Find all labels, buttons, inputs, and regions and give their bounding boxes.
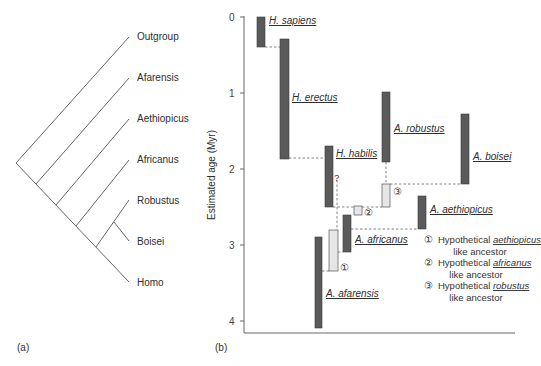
- legend-item-1: ① Hypothetical aethiopicus like ancestor: [424, 234, 541, 257]
- legend-prefix: Hypothetical: [438, 234, 493, 245]
- legend-prefix: Hypothetical: [438, 280, 493, 291]
- bar-a-afarensis: [315, 237, 322, 328]
- hypothetical-bars: [329, 184, 390, 271]
- marker-1: ①: [340, 262, 349, 273]
- boisei-branch: [114, 222, 129, 241]
- legend-suffix: like ancestor: [453, 246, 506, 257]
- y-tick-label: 0: [229, 12, 235, 23]
- bar-a-robustus: [382, 92, 390, 162]
- bar-hypothetical-1: [329, 230, 338, 271]
- taxon-label: Boisei: [137, 236, 164, 247]
- panel-b-label: (b): [215, 342, 227, 353]
- legend-text: Hypothetical africanus: [438, 257, 532, 268]
- figure-canvas: Outgroup Afarensis Aethiopicus Africanus…: [0, 0, 541, 366]
- taxon-label: Africanus: [137, 154, 179, 165]
- outgroup-branch: [16, 37, 129, 163]
- y-tick-label: 1: [229, 88, 235, 99]
- y-axis-label: Estimated age (Myr): [206, 130, 217, 220]
- taxon-label: Robustus: [137, 195, 179, 206]
- legend-suffix: like ancestor: [449, 292, 502, 303]
- species-label-a-robustus: A. robustus: [393, 123, 445, 134]
- species-label-a-boisei: A. boisei: [472, 151, 512, 162]
- y-tick-labels: 0 1 2 3 4: [229, 12, 235, 327]
- legend-taxon: robustus: [493, 280, 530, 291]
- bar-hypothetical-3: [382, 184, 390, 207]
- legend: ① Hypothetical aethiopicus like ancestor…: [424, 234, 541, 303]
- aethiopicus-branch: [56, 119, 129, 205]
- legend-taxon: aethiopicus: [493, 234, 541, 245]
- marker-2: ②: [364, 207, 373, 218]
- y-tick-label: 2: [229, 164, 235, 175]
- legend-number: ③: [424, 280, 433, 291]
- legend-number: ②: [424, 257, 433, 268]
- legend-text: Hypothetical robustus: [438, 280, 530, 291]
- cladogram: [16, 37, 129, 282]
- y-tick-label: 3: [229, 240, 235, 251]
- species-label-a-afarensis: A. afarensis: [325, 288, 379, 299]
- legend-item-3: ③ Hypothetical robustus like ancestor: [424, 280, 530, 303]
- afarensis-branch: [36, 78, 129, 184]
- taxon-label: Afarensis: [137, 72, 179, 83]
- taxon-label: Outgroup: [137, 31, 179, 42]
- africanus-branch: [76, 160, 129, 226]
- marker-3: ③: [393, 186, 402, 197]
- species-label-h-sapiens: H. sapiens: [269, 15, 316, 26]
- legend-prefix: Hypothetical: [438, 257, 493, 268]
- panel-a-label: (a): [17, 342, 29, 353]
- legend-number: ①: [424, 234, 433, 245]
- species-label-a-aethiopicus: A. aethiopicus: [429, 204, 493, 215]
- legend-taxon: africanus: [493, 257, 532, 268]
- species-label-h-habilis: H. habilis: [336, 148, 377, 159]
- taxon-label: Homo: [137, 277, 164, 288]
- robustus-branch: [96, 200, 129, 247]
- bar-hypothetical-2: [354, 206, 362, 215]
- bar-a-africanus: [343, 215, 351, 252]
- bar-h-habilis: [325, 146, 333, 207]
- bar-h-sapiens: [257, 17, 265, 47]
- legend-suffix: like ancestor: [449, 269, 502, 280]
- legend-text: Hypothetical aethiopicus: [438, 234, 541, 245]
- species-label-h-erectus: H. erectus: [292, 92, 338, 103]
- taxon-label: Aethiopicus: [137, 113, 189, 124]
- question-mark: ?: [334, 172, 339, 183]
- species-label-a-africanus: A. africanus: [354, 234, 408, 245]
- bar-a-aethiopicus: [418, 196, 426, 229]
- bar-a-boisei: [461, 114, 469, 184]
- bar-h-erectus: [280, 39, 289, 159]
- legend-item-2: ② Hypothetical africanus like ancestor: [424, 257, 532, 280]
- y-tick-label: 4: [229, 316, 235, 327]
